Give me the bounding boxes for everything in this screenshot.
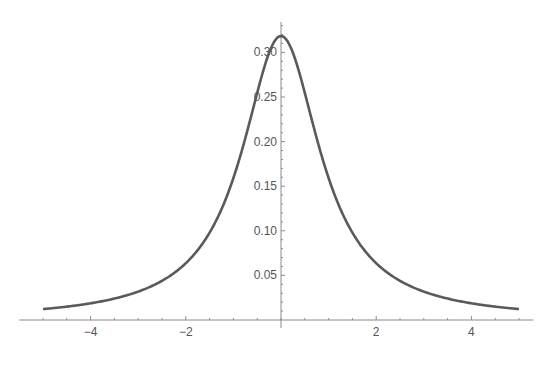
y-tick-label: 0.05 xyxy=(254,268,278,282)
x-axis: −4−224 xyxy=(19,316,533,339)
y-tick-label: 0.30 xyxy=(254,45,278,59)
x-tick-label: 2 xyxy=(373,325,380,339)
y-axis: 0.050.100.150.200.250.30 xyxy=(254,22,285,328)
y-tick-label: 0.15 xyxy=(254,179,278,193)
y-tick-label: 0.20 xyxy=(254,135,278,149)
y-tick-label: 0.10 xyxy=(254,224,278,238)
x-tick-label: −2 xyxy=(179,325,193,339)
line-chart: −4−224 0.050.100.150.200.250.30 xyxy=(0,0,556,369)
x-tick-label: 4 xyxy=(468,325,475,339)
x-tick-label: −4 xyxy=(84,325,98,339)
